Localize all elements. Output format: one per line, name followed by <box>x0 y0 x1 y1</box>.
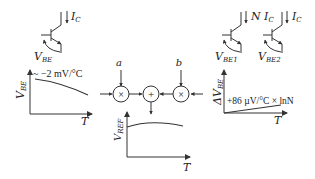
input-a-label: a <box>116 57 122 68</box>
plot-vbe-annotation: ~ −2 mV/°C <box>33 68 83 79</box>
plot-vref: VREF T <box>112 112 192 174</box>
vref-curve <box>127 123 183 127</box>
plot-dvbe-annotation: +86 µV/°C × lnN <box>227 96 294 106</box>
t2-current-label: IC <box>291 10 302 24</box>
plot-vbe-ylabel: VBE <box>14 81 28 99</box>
collector-current-label: IC <box>70 10 81 24</box>
plot-dvbe-ylabel: ΔVBE <box>211 79 225 106</box>
t1-current-label: N IC <box>250 10 274 24</box>
input-b-label: b <box>176 57 182 68</box>
vbe1-label: VBE1 <box>215 50 238 64</box>
multiplier-a-symbol: × <box>118 89 124 100</box>
dvbe-line <box>224 105 281 113</box>
plot-vref-xlabel: T <box>183 161 192 174</box>
vbe2-label: VBE2 <box>258 50 281 64</box>
multiplier-b-symbol: × <box>178 89 184 100</box>
adder-symbol: + <box>148 88 154 100</box>
transistor-left: IC VBE <box>34 10 81 64</box>
plot-vbe-xlabel: T <box>81 115 90 128</box>
vbe-curve <box>35 79 88 95</box>
plot-dvbe: ΔVBE +86 µV/°C × lnN T <box>211 70 294 127</box>
plot-dvbe-xlabel: T <box>274 114 283 127</box>
vbe-label: VBE <box>34 50 52 64</box>
transistor-pair: N IC VBE1 IC VBE2 <box>215 10 302 64</box>
plot-vref-ylabel: VREF <box>112 117 125 141</box>
block-diagram: a b × + × <box>100 57 203 114</box>
plot-vbe: VBE ~ −2 mV/°C T <box>14 68 92 128</box>
